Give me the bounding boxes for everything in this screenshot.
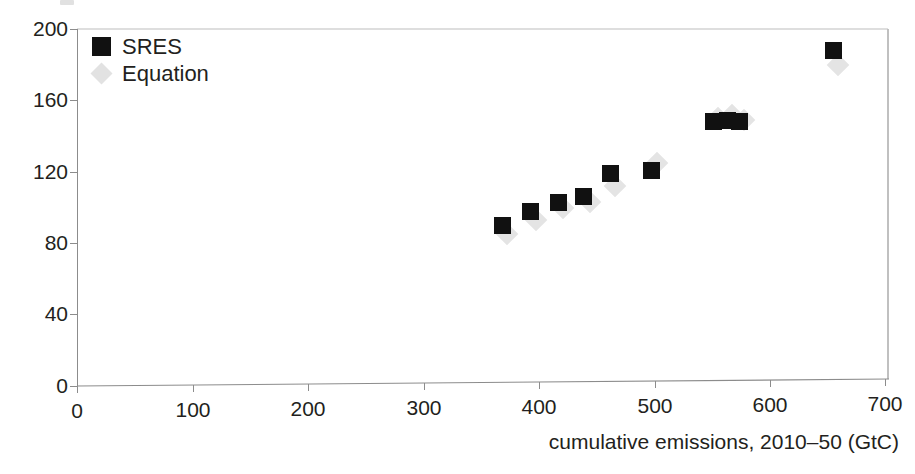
data-point-sres-8 bbox=[731, 113, 748, 130]
data-point-sres-0 bbox=[494, 217, 511, 234]
x-tick-0 bbox=[77, 386, 78, 393]
x-tick-label-600: 600 bbox=[730, 394, 810, 415]
x-tick-label-500: 500 bbox=[615, 395, 695, 416]
x-axis-title: cumulative emissions, 2010–50 (GtC) bbox=[549, 430, 899, 454]
y-tick-label-200-text: 200 bbox=[4, 18, 68, 39]
y-tick-label-80-text: 80 bbox=[4, 232, 68, 253]
data-point-sres-1 bbox=[522, 203, 539, 220]
x-tick-label-700: 700 bbox=[845, 393, 915, 414]
x-tick-label-100: 100 bbox=[153, 399, 233, 420]
y-tick-label-40-text: 40 bbox=[4, 303, 68, 324]
y-tick-label-120-text: 120 bbox=[4, 161, 68, 182]
y-tick-label-0-text: 0 bbox=[4, 375, 68, 396]
x-tick-label-400: 400 bbox=[499, 396, 579, 417]
data-point-sres-3 bbox=[575, 188, 592, 205]
cropped-caption-artifact bbox=[60, 0, 74, 5]
y-tick-label-160-text: 160 bbox=[4, 89, 68, 110]
x-tick-label-300: 300 bbox=[384, 397, 464, 418]
plot-area bbox=[77, 29, 889, 386]
x-tick-100 bbox=[193, 385, 194, 392]
data-point-sres-4 bbox=[602, 165, 619, 182]
x-tick-label-200: 200 bbox=[268, 398, 348, 419]
data-point-sres-9 bbox=[825, 42, 842, 59]
x-tick-label-0: 0 bbox=[37, 400, 117, 421]
scatter-chart: 200 160 120 80 40 0 0 100 200 300 400 50… bbox=[0, 0, 915, 474]
data-point-sres-2 bbox=[550, 194, 567, 211]
data-point-sres-5 bbox=[643, 162, 660, 179]
